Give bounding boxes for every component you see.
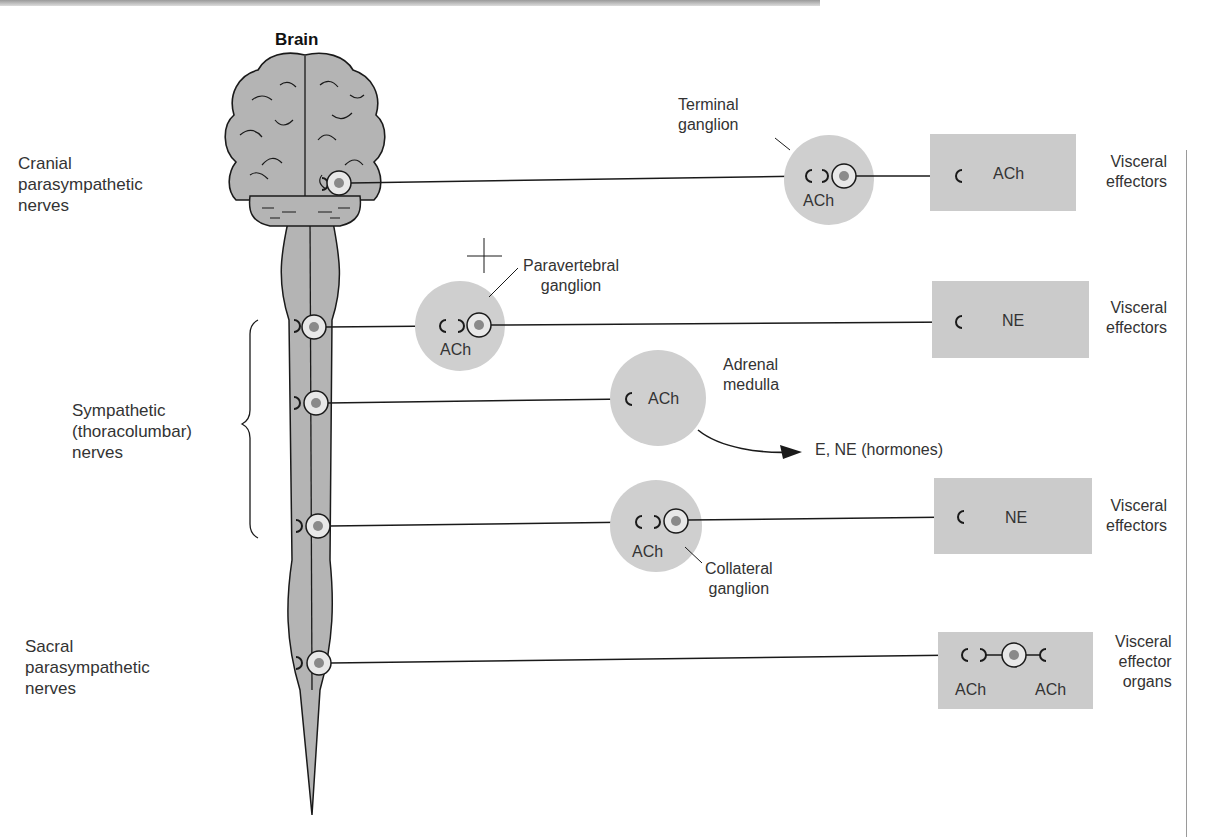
transmitter-label: ACh xyxy=(803,191,834,211)
terminal-ganglion-label: Terminal ganglion xyxy=(678,95,739,135)
transmitter-label: ACh xyxy=(440,340,471,360)
visceral-effectors-label: Visceral effectors xyxy=(1106,496,1167,536)
spinal-cord xyxy=(281,215,339,815)
visceral-effectors-label: Visceral effectors xyxy=(1106,152,1167,192)
collateral-pathway xyxy=(296,478,1092,572)
transmitter-label: ACh xyxy=(1035,680,1066,700)
transmitter-label: ACh xyxy=(993,164,1024,184)
transmitter-label: NE xyxy=(1005,508,1027,528)
collateral-ganglion-label: Collateral ganglion xyxy=(705,559,773,599)
adrenal-medulla-label: Adrenal medulla xyxy=(723,355,779,395)
visceral-effectors-label: Visceral effectors xyxy=(1106,298,1167,338)
transmitter-label: ACh xyxy=(632,542,663,562)
sympathetic-brace xyxy=(242,320,258,538)
paravertebral-ganglion-label: Paravertebral ganglion xyxy=(523,256,619,296)
cranial-label: Cranial parasympathetic nerves xyxy=(18,153,143,216)
brain-icon xyxy=(225,53,385,226)
transmitter-label: ACh xyxy=(648,389,679,409)
visceral-effector-organs-label: Visceral effector organs xyxy=(1115,632,1172,692)
arrowhead-icon xyxy=(780,445,802,459)
paravertebral-pathway xyxy=(294,238,1089,371)
transmitter-label: NE xyxy=(1002,311,1024,331)
brain-title: Brain xyxy=(275,30,318,50)
sympathetic-label: Sympathetic (thoracolumbar) nerves xyxy=(72,400,192,463)
transmitter-label: ACh xyxy=(955,680,986,700)
terminal-ganglion xyxy=(784,135,874,225)
cranial-pathway xyxy=(322,134,1076,225)
hormones-output-label: E, NE (hormones) xyxy=(815,440,943,460)
sacral-label: Sacral parasympathetic nerves xyxy=(25,636,150,699)
